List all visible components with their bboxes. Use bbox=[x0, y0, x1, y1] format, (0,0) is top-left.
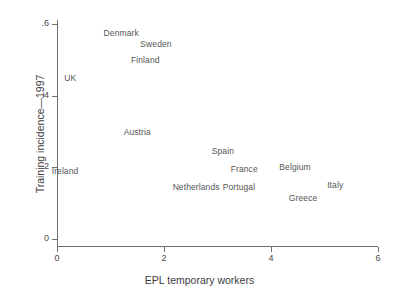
y-axis-tick-label: .6 bbox=[25, 18, 49, 28]
x-axis-title: EPL temporary workers bbox=[0, 274, 399, 286]
scatter-plot-figure: .6.4.200246 DenmarkSwedenFinlandUKAustri… bbox=[0, 0, 399, 297]
y-axis-tick bbox=[52, 24, 57, 25]
data-point-label-belgium: Belgium bbox=[279, 162, 310, 172]
x-axis-tick bbox=[57, 247, 58, 252]
y-axis-title: Training incidence—1997 bbox=[34, 34, 46, 234]
x-axis-tick-label: 0 bbox=[45, 253, 69, 263]
x-axis-line bbox=[57, 246, 378, 247]
data-point-label-finland: Finland bbox=[131, 55, 160, 65]
data-point-label-greece: Greece bbox=[289, 193, 317, 203]
data-point-label-portugal: Portugal bbox=[223, 182, 255, 192]
data-point-label-ireland: Ireland bbox=[52, 166, 79, 176]
x-axis-tick-label: 4 bbox=[259, 253, 283, 263]
data-point-label-france: France bbox=[231, 164, 258, 174]
x-axis-tick bbox=[378, 247, 379, 252]
data-point-label-austria: Austria bbox=[124, 127, 151, 137]
data-point-label-spain: Spain bbox=[212, 146, 234, 156]
x-axis-tick bbox=[164, 247, 165, 252]
x-axis-tick bbox=[271, 247, 272, 252]
data-point-label-denmark: Denmark bbox=[104, 28, 139, 38]
x-axis-tick-label: 6 bbox=[366, 253, 390, 263]
x-axis-tick-label: 2 bbox=[152, 253, 176, 263]
data-point-label-uk: UK bbox=[64, 73, 76, 83]
y-axis-tick bbox=[52, 239, 57, 240]
data-point-label-italy: Italy bbox=[327, 180, 343, 190]
y-axis-tick-label: 0 bbox=[25, 233, 49, 243]
data-point-label-netherlands: Netherlands bbox=[173, 182, 220, 192]
y-axis-line bbox=[57, 20, 58, 246]
y-axis-tick bbox=[52, 96, 57, 97]
data-point-label-sweden: Sweden bbox=[140, 39, 171, 49]
